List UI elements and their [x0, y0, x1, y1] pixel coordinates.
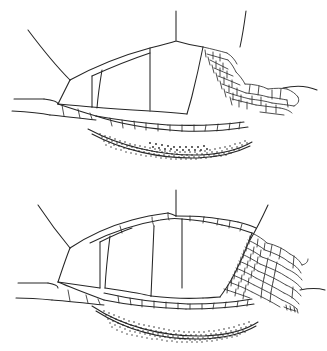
illustration-canvas	[0, 0, 327, 351]
page-background	[0, 0, 327, 351]
botanical-illustration-svg	[0, 0, 327, 351]
